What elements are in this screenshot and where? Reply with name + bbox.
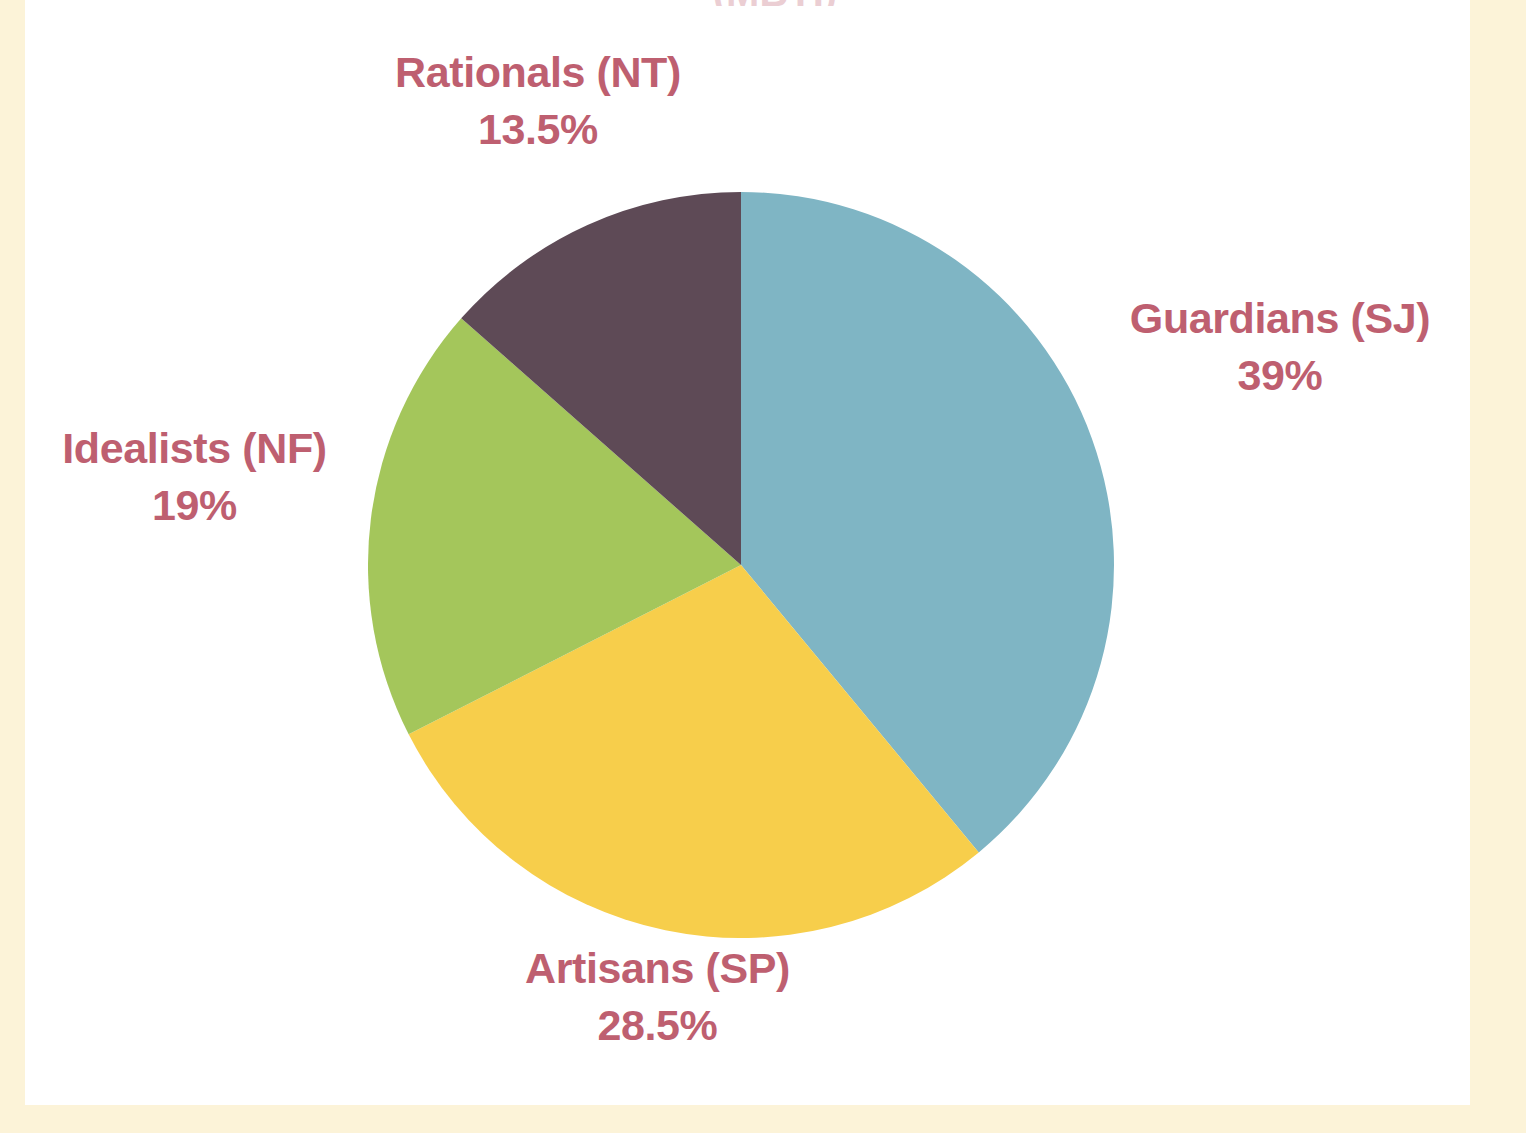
pie-label-guardians: Guardians (SJ) 39% — [1090, 290, 1470, 404]
pie-chart-svg — [368, 192, 1114, 938]
pie-label-rationals: Rationals (NT) 13.5% — [358, 44, 718, 158]
pie-label-guardians-value: 39% — [1090, 347, 1470, 404]
pie-label-artisans: Artisans (SP) 28.5% — [470, 940, 845, 1054]
pie-label-artisans-name: Artisans (SP) — [470, 940, 845, 997]
pie-label-artisans-value: 28.5% — [470, 997, 845, 1054]
pie-label-idealists: Idealists (NF) 19% — [22, 420, 367, 534]
pie-label-rationals-value: 13.5% — [358, 101, 718, 158]
page-background: (MBTI) Rationals (NT) 13.5% Guardians (S… — [0, 0, 1526, 1133]
clipped-title: (MBTI) — [560, 0, 990, 6]
pie-chart — [368, 192, 1114, 938]
pie-label-idealists-name: Idealists (NF) — [22, 420, 367, 477]
pie-label-idealists-value: 19% — [22, 477, 367, 534]
pie-label-rationals-name: Rationals (NT) — [358, 44, 718, 101]
pie-label-guardians-name: Guardians (SJ) — [1090, 290, 1470, 347]
